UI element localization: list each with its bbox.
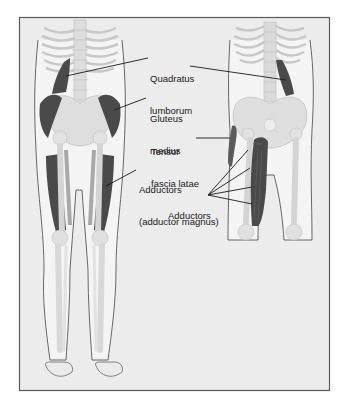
label-adductors-line1: Adductors xyxy=(168,211,211,222)
posterior-knee-left xyxy=(52,230,68,246)
anterior-knee-right xyxy=(286,224,302,240)
label-adductors: Adductors xyxy=(168,190,211,232)
label-gluteus-medius-line1: Gluteus xyxy=(150,114,183,125)
posterior-spine xyxy=(74,20,86,110)
label-quadratus-lumborum-line1: Quadratus xyxy=(150,74,194,85)
label-tensor-fascia-latae-line1: Tensor xyxy=(151,147,199,158)
anterior-knee-left xyxy=(238,224,254,240)
posterior-knee-right xyxy=(92,230,108,246)
